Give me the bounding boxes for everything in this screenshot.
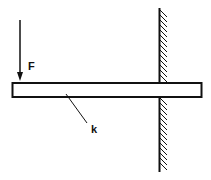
beam [13,83,202,97]
force-arrow [17,20,23,81]
stiffness-label: k [91,123,98,135]
force-label: F [28,60,35,72]
arrow-head-icon [17,72,23,81]
beam-diagram: F k [0,0,211,180]
stiffness-leader-line [66,94,87,123]
